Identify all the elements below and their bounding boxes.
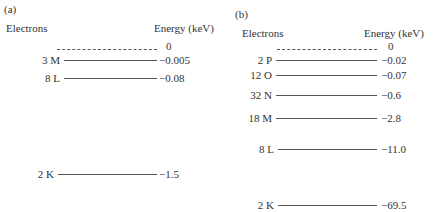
panel-b-level-line [276,60,377,61]
panel-b-energy-value: −11.0 [381,143,406,155]
panel-b-shell-label: 8 L [234,143,274,155]
panel-b-energy-value: −0.02 [381,54,406,66]
panel-b-energy-value: −0.6 [381,89,401,101]
panel-a-shell-label: 3 M [20,54,60,66]
panel-a-shell-label: 8 L [20,72,60,84]
panel-b-zero-value: 0 [388,40,394,52]
panel-a-electrons-header: Electrons [6,22,48,34]
panel-a-level-line [58,174,157,175]
panel-a-energy-header: Energy (keV) [154,22,214,34]
panel-b-level-line [276,95,377,96]
panel-b-level-line [278,205,377,206]
panel-b-shell-label: 18 M [232,112,272,124]
panel-a-zero-level-dashed-line [57,49,157,50]
panel-a-energy-value: −0.08 [159,72,184,84]
panel-a-energy-value: −1.5 [159,168,179,180]
panel-b-shell-label: 32 N [232,89,272,101]
panel-b-shell-label: 2 K [234,199,274,211]
panel-b-energy-value: −69.5 [381,199,406,211]
panel-b-level-line [278,149,377,150]
panel-a-level-line [64,78,157,79]
panel-b-zero-level-dashed-line [277,49,377,50]
panel-b-energy-value: −0.07 [381,69,406,81]
panel-b-energy-value: −2.8 [381,112,401,124]
panel-b-label: (b) [235,8,248,20]
panel-b-energy-header: Energy (keV) [364,27,424,39]
panel-a-energy-value: −0.005 [159,54,190,66]
panel-b-level-line [276,118,377,119]
panel-a-shell-label: 2 K [14,168,54,180]
panel-b-shell-label: 2 P [232,54,272,66]
panel-a-level-line [64,60,157,61]
panel-b-shell-label: 12 O [232,69,272,81]
panel-b-level-line [276,75,377,76]
panel-b-electrons-header: Electrons [242,27,284,39]
panel-a-label: (a) [4,3,16,15]
panel-a-zero-value: 0 [166,40,172,52]
